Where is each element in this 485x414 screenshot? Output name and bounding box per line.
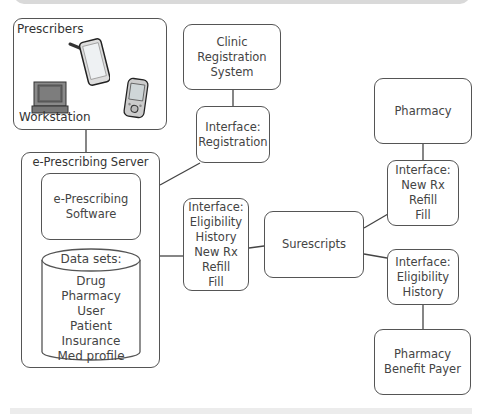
- dataset-item: Insurance: [41, 334, 141, 349]
- interface-newrx-refill-fill: Interface: New Rx Refill Fill: [387, 160, 459, 226]
- workstation-label: Workstation: [19, 110, 91, 124]
- interface-eligibility-history: Interface: Eligibility History: [387, 249, 459, 305]
- dataset-item: User: [41, 304, 141, 319]
- interface-registration: Interface: Registration: [196, 106, 270, 163]
- datasets-database: Data sets: Drug Pharmacy User Patient In…: [41, 248, 141, 362]
- datasets-list: Drug Pharmacy User Patient Insurance Med…: [41, 274, 141, 364]
- dataset-item: Drug: [41, 274, 141, 289]
- prescribers-title: Prescribers: [17, 22, 83, 36]
- pharmacy-benefit-payer: Pharmacy Benefit Payer: [374, 329, 471, 395]
- server-title: e-Prescribing Server: [21, 155, 160, 169]
- dataset-item: Med profile: [41, 349, 141, 364]
- e-prescribing-software: e-Prescribing Software: [41, 173, 141, 240]
- tablet-icon: [68, 38, 110, 88]
- pda-icon: [122, 76, 150, 120]
- dataset-item: Pharmacy: [41, 289, 141, 304]
- interface-eligibility-history-rx: Interface: Eligibility History New Rx Re…: [183, 198, 249, 291]
- dataset-item: Patient: [41, 319, 141, 334]
- pharmacy: Pharmacy: [374, 78, 472, 144]
- clinic-registration-system: Clinic Registration System: [183, 24, 281, 90]
- datasets-title: Data sets:: [41, 252, 141, 267]
- surescripts: Surescripts: [264, 211, 364, 278]
